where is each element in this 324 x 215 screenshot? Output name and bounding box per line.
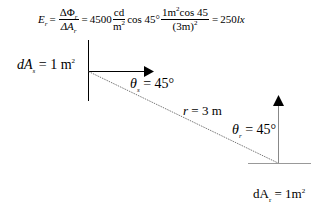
source-area-label: dAs = 1 m2 (17, 57, 75, 73)
receiver-area-label: dAr = 1m2 (253, 186, 305, 202)
geometry-diagram (0, 0, 324, 215)
receiver-angle-label: θr = 45° (232, 122, 276, 138)
source-angle-label: θs = 45° (130, 76, 174, 92)
distance-label: r = 3 m (183, 103, 222, 119)
receiver-normal-arrowhead-icon (273, 95, 284, 106)
